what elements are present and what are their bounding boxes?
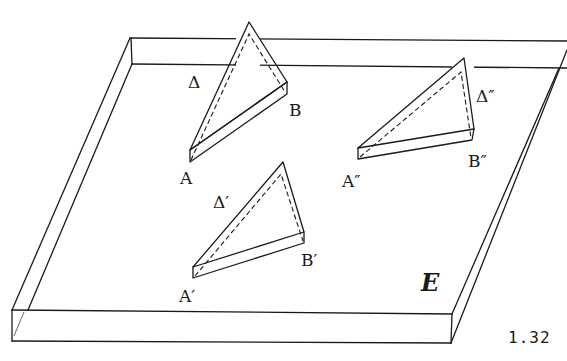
diagram-svg (0, 0, 567, 361)
figure-canvas: Δ B A Δ′ B′ A′ Δ″ B″ A″ E 1.32 (0, 0, 567, 361)
label-vertex-b-double-prime: B″ (468, 153, 487, 170)
label-vertex-a: A (180, 170, 192, 187)
plane-slab (12, 38, 567, 343)
label-triangle-delta-prime: Δ′ (213, 194, 229, 211)
label-triangle-delta: Δ (188, 74, 200, 91)
label-vertex-b: B (289, 102, 302, 119)
triangle-delta (190, 22, 287, 162)
triangle-delta-double-prime (358, 58, 474, 159)
label-vertex-a-double-prime: A″ (342, 173, 361, 190)
label-triangle-delta-double-prime: Δ″ (476, 88, 495, 105)
label-plane-e: E (421, 271, 439, 295)
label-vertex-a-prime: A′ (179, 288, 195, 305)
triangle-delta-prime (193, 162, 304, 278)
label-vertex-b-prime: B′ (301, 252, 317, 269)
figure-number: 1.32 (508, 330, 551, 346)
